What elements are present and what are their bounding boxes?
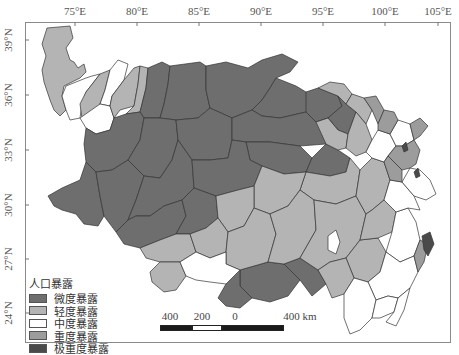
scale-segment-black (160, 325, 192, 331)
scale-label: 400 km (283, 310, 316, 322)
legend: 人口暴露 微度暴露 轻度暴露 中度暴露 重度暴露 极重度暴露 (29, 275, 109, 355)
legend-swatch (29, 294, 47, 303)
scale-label: 200 (194, 310, 211, 322)
scale-segment-black (222, 325, 284, 331)
legend-title: 人口暴露 (29, 275, 109, 291)
legend-swatch (29, 331, 47, 340)
region-slight-w3 (48, 162, 104, 226)
legend-swatch (29, 319, 47, 328)
legend-item-extreme: 极重度暴露 (29, 342, 109, 355)
legend-swatch (29, 306, 47, 315)
scale-label: 0 (232, 310, 238, 322)
scale-segment-white (192, 325, 222, 331)
scale-label: 400 (162, 310, 179, 322)
legend-label: 极重度暴露 (54, 340, 109, 355)
legend-swatch (29, 344, 47, 353)
region-light-s8 (150, 262, 186, 292)
